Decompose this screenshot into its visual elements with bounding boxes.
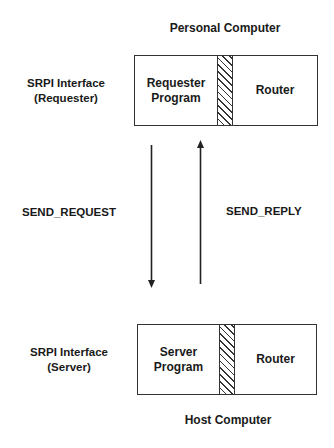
send-request-arrow [148, 145, 155, 288]
server-program-line1: Server [154, 345, 203, 360]
router-label-bottom: Router [256, 352, 295, 367]
server-program-cell: Server Program [138, 325, 219, 394]
router-cell-bottom: Router [235, 325, 316, 394]
server-program-line2: Program [154, 360, 203, 375]
send-reply-label: SEND_REPLY [226, 205, 302, 217]
server-interface-line1: SRPI Interface [13, 345, 125, 360]
interface-boundary-hatch-bottom [219, 325, 235, 394]
send-reply-arrow [197, 140, 204, 284]
host-computer-title: Host Computer [158, 413, 298, 427]
send-request-label: SEND_REQUEST [22, 206, 116, 218]
server-interface-line2: (Server) [13, 360, 125, 375]
host-computer-box: Server Program Router [137, 324, 317, 395]
server-interface-label: SRPI Interface (Server) [13, 345, 125, 375]
